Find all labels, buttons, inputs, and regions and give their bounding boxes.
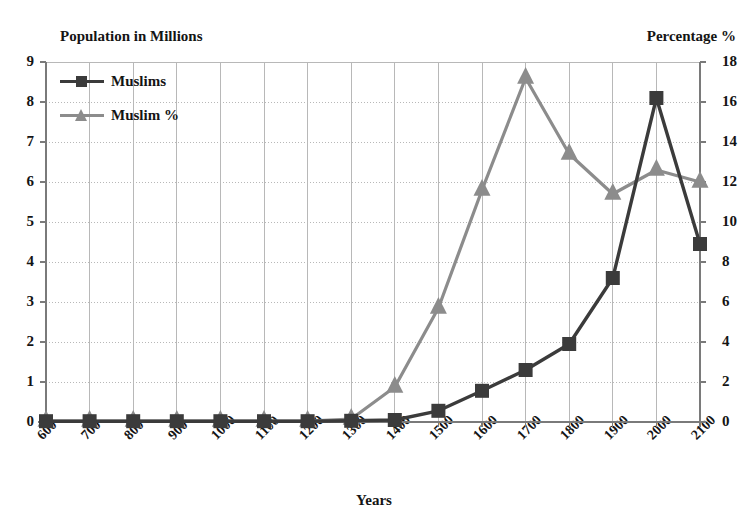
legend-item-muslim-percent: Muslim % — [60, 102, 179, 128]
legend-swatch-muslim-percent — [60, 108, 104, 122]
legend-item-muslims: Muslims — [60, 68, 166, 94]
square-marker-icon — [76, 76, 87, 87]
legend-label-muslims: Muslims — [111, 73, 166, 90]
legend-swatch-muslims — [60, 74, 104, 88]
chart-legend: Muslims Muslim % — [60, 66, 195, 132]
chart-container: Population in Millions Percentage % Year… — [0, 0, 748, 527]
triangle-marker-icon — [75, 109, 87, 121]
legend-label-muslim-percent: Muslim % — [111, 107, 179, 124]
